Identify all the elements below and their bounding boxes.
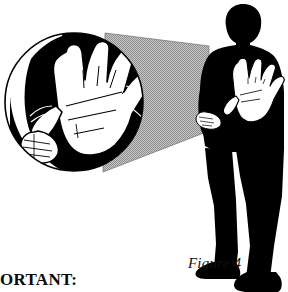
figure-caption: Figure 4 [188,254,241,272]
figure-page: Figure 4 IMPORTANT: [0,0,288,292]
important-note-text: IMPORTANT: [0,270,77,290]
figure-illustration [0,0,288,292]
